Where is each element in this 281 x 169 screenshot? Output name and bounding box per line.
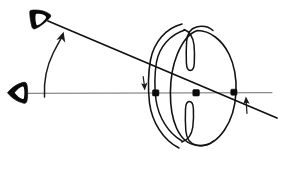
cornea-intersection-node xyxy=(153,90,159,96)
oblique-observer-eye xyxy=(30,10,51,29)
optics-diagram-figure: Schematic eye with oblique and axial vie… xyxy=(0,0,281,169)
entrance-shift-arrow xyxy=(141,77,148,91)
iris-lower-fold xyxy=(182,102,214,146)
lens-exit-node xyxy=(231,89,237,95)
exit-shift-arrow xyxy=(243,97,250,114)
diagram-canvas xyxy=(0,0,281,169)
crystalline-lens-outline xyxy=(170,31,236,146)
rotation-arrow xyxy=(44,32,65,97)
nodal-point-node xyxy=(193,90,200,96)
axial-observer-eye xyxy=(8,82,28,103)
